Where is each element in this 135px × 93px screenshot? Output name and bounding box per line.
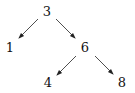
edge-6-to-8 bbox=[95, 56, 113, 74]
edge-3-to-6 bbox=[56, 19, 75, 38]
tree-diagram: 3 1 6 4 8 bbox=[0, 0, 135, 93]
node-4: 4 bbox=[44, 75, 52, 90]
node-1: 1 bbox=[6, 40, 14, 55]
node-6: 6 bbox=[81, 40, 89, 55]
node-3: 3 bbox=[43, 4, 51, 19]
edge-3-to-1 bbox=[19, 19, 38, 38]
node-8: 8 bbox=[118, 75, 126, 90]
edge-6-to-4 bbox=[57, 56, 76, 75]
